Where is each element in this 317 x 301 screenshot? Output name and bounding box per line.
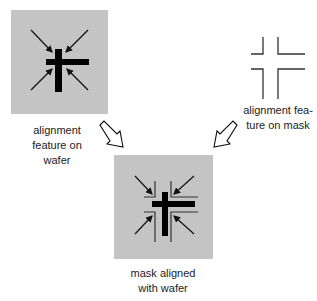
mask-feature-label: alignment fea- ture on mask [236, 103, 317, 133]
aligned-panel [114, 155, 213, 259]
flow-arrow-left [100, 121, 123, 147]
label-line: with wafer [118, 281, 208, 296]
label-line: alignment [17, 123, 97, 138]
cross-vertical-bar [55, 49, 62, 92]
label-line: alignment fea- [236, 103, 317, 118]
aligned-label: mask aligned with wafer [118, 266, 208, 296]
cross-horizontal-bar [152, 201, 195, 207]
label-line: ture on mask [236, 118, 317, 133]
mask-panel [251, 37, 305, 99]
mask-corner-bottom-left [251, 69, 263, 99]
wafer-panel [11, 10, 108, 114]
mask-corner-bottom-right [278, 69, 305, 99]
label-line: wafer [17, 153, 97, 168]
cross-horizontal-bar [46, 59, 89, 65]
mask-corner-top-right [278, 37, 305, 54]
wafer-feature-label: alignment feature on wafer [17, 123, 97, 168]
flow-arrow-right [214, 121, 237, 147]
mask-corner-top-left [251, 37, 263, 54]
label-line: mask aligned [118, 266, 208, 281]
cross-vertical-bar [162, 192, 168, 236]
label-line: feature on [17, 138, 97, 153]
